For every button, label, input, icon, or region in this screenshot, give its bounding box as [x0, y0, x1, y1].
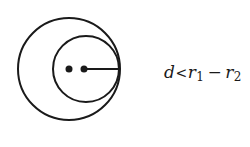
radius-2-subscript: 2 — [234, 70, 242, 84]
distance-symbol: d — [164, 62, 175, 82]
minus-symbol: − — [207, 62, 222, 82]
radius-1-subscript: 1 — [196, 70, 204, 84]
radius-1-symbol: r — [188, 62, 197, 82]
condition-label: d<r1−r2 — [164, 62, 242, 84]
inner-center-dot — [81, 66, 88, 73]
less-than-symbol: < — [175, 65, 187, 81]
outer-center-dot — [66, 66, 73, 73]
tangent-circles-figure: d<r1−r2 — [0, 0, 250, 147]
radius-2-symbol: r — [225, 62, 234, 82]
